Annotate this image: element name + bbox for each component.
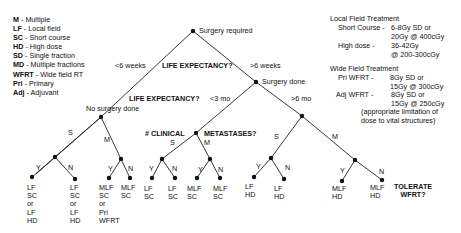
branch-y: Y bbox=[108, 165, 113, 173]
leaf-treatment: LF HD bbox=[274, 185, 284, 201]
leaf-treatment: LF SC bbox=[144, 185, 154, 201]
legend-item: SD - Single fraction bbox=[13, 51, 85, 60]
pri-wfrt-value: 8Gy SD or 15Gy @ 300cGy bbox=[390, 74, 443, 91]
branch-y: Y bbox=[149, 165, 154, 173]
legend-item: M - Multiple bbox=[13, 15, 85, 24]
legend-item: SC - Short course bbox=[13, 33, 85, 42]
leaf-treatment: MLF SC bbox=[121, 184, 135, 200]
leaf-treatment: LF SC or LF HD bbox=[27, 184, 37, 225]
adj-wfrt-value: 8Gy SD or 15Gy @ 250cGy bbox=[391, 91, 444, 108]
branch-s: S bbox=[68, 129, 73, 137]
tolerate-wfrt-question: TOLERATE WFRT? bbox=[394, 183, 432, 200]
node-root bbox=[191, 29, 195, 33]
abbreviation-legend: M - Multiple LF - Local field SC - Short… bbox=[13, 15, 85, 97]
high-dose-label: High dose - bbox=[338, 42, 375, 51]
node-more-6mo bbox=[300, 114, 304, 118]
branch-y: Y bbox=[340, 167, 345, 175]
less-6-weeks-label: <6 weeks bbox=[115, 62, 146, 70]
branch-m: M bbox=[104, 136, 110, 144]
branch-n: N bbox=[128, 165, 133, 173]
life-expectancy-question-1: LIFE EXPECTANCY? bbox=[162, 62, 233, 70]
branch-n: N bbox=[285, 164, 290, 172]
metastases-question: METASTASES? bbox=[204, 130, 256, 138]
branch-m: M bbox=[204, 139, 210, 147]
branch-n: N bbox=[218, 166, 223, 174]
surgery-required-label: Surgery required bbox=[199, 27, 253, 35]
branch-n: N bbox=[172, 165, 177, 173]
life-expectancy-question-2: LIFE EXPECTANCY? bbox=[129, 95, 200, 103]
leaf-treatment: MLF HD bbox=[370, 184, 384, 200]
more-6-weeks-label: >6 weeks bbox=[250, 62, 281, 70]
branch-n: N bbox=[68, 164, 73, 172]
branch-m: M bbox=[332, 133, 338, 141]
node-no-surgery bbox=[99, 115, 103, 119]
legend-item: Adj - Adjuvant bbox=[13, 88, 85, 97]
legend-item: Pri - Primary bbox=[13, 79, 85, 88]
legend-item: LF - Local field bbox=[13, 24, 85, 33]
branch-y: Y bbox=[36, 164, 41, 172]
dose-limitation-note: (appropriate limitation of dose to vital… bbox=[361, 108, 438, 125]
leaf-treatment: MLF SC bbox=[187, 185, 201, 201]
no-surgery-done-label: No surgery done bbox=[86, 105, 139, 113]
branch-s: S bbox=[274, 133, 279, 141]
surgery-done-label: Surgery done bbox=[262, 78, 305, 86]
short-course-value: 6-8Gy SD or 20Gy @ 400cGy bbox=[391, 24, 444, 41]
more-6-mo-label: >6 mo bbox=[291, 95, 311, 103]
leaf-treatment: MLF SC or Pri WFRT bbox=[99, 184, 120, 225]
less-3-mo-label: <3 mo bbox=[210, 95, 230, 103]
adj-wfrt-label: Adj WFRT - bbox=[336, 91, 373, 100]
branch-s: S bbox=[170, 139, 175, 147]
legend-item: WFRT - Wide field RT bbox=[13, 70, 85, 79]
leaf-treatment: MLF SC bbox=[213, 185, 227, 201]
clinical-label: # CLINICAL bbox=[145, 130, 185, 138]
leaf-treatment: MLF HD bbox=[332, 185, 346, 201]
node-less-3mo bbox=[194, 131, 198, 135]
leaf-treatment: LF SC or LF HD bbox=[70, 184, 80, 225]
high-dose-value: 36-42Gy @ 200-300cGy bbox=[391, 42, 439, 59]
node-surgery-done bbox=[254, 80, 258, 84]
branch-y: Y bbox=[256, 163, 261, 171]
legend-item: MD - Multiple fractions bbox=[13, 60, 85, 69]
leaf-treatment: LF SC bbox=[168, 185, 178, 201]
legend-item: HD - High dose bbox=[13, 42, 85, 51]
short-course-label: Short Course - bbox=[338, 24, 385, 33]
leaf-treatment: LF HD bbox=[245, 183, 255, 199]
pri-wfrt-label: Pri WFRT - bbox=[338, 74, 374, 83]
branch-n: N bbox=[379, 168, 384, 176]
branch-y: Y bbox=[198, 166, 203, 174]
